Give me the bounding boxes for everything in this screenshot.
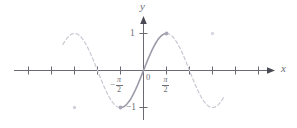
fraction-denominator: 2 [116, 86, 122, 95]
marker-endpoint-max [165, 32, 169, 36]
fraction-denominator: 2 [163, 86, 169, 95]
sine-graph-figure: y x 0 1 −1 − π 2 π 2 [0, 0, 297, 128]
x-tick-label-pi-over-2: π 2 [162, 76, 169, 95]
y-tick-label-minus-1: −1 [126, 103, 136, 113]
plot-canvas [0, 0, 297, 128]
fraction: π 2 [162, 76, 169, 95]
origin-label: 0 [146, 73, 150, 82]
minus-sign: − [110, 80, 115, 89]
fraction: π 2 [116, 76, 123, 95]
y-axis-label: y [140, 1, 145, 12]
x-axis-arrowhead [267, 67, 275, 74]
marker-far-left-min [73, 106, 76, 109]
marker-far-right-max [211, 32, 214, 35]
marker-endpoint-min [119, 106, 123, 110]
y-axis-arrowhead [140, 16, 147, 24]
fraction-numerator: π [116, 76, 122, 85]
y-tick-label-1: 1 [130, 29, 135, 39]
x-axis-label: x [281, 63, 286, 74]
x-tick-label-minus-pi-over-2: − π 2 [110, 76, 123, 95]
fraction-numerator: π [162, 76, 168, 85]
